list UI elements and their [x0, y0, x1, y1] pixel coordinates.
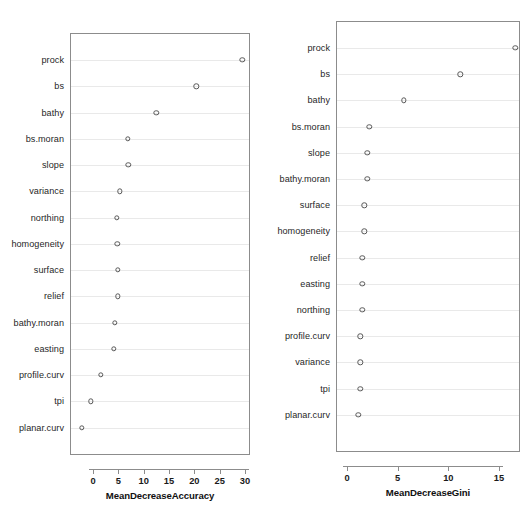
x-axis-tick: [448, 466, 449, 471]
gridline: [337, 127, 519, 128]
gridline: [71, 270, 249, 271]
gridline: [71, 113, 249, 114]
gridline: [71, 323, 249, 324]
y-axis-category-label: slope: [308, 148, 330, 158]
x-axis-tick: [220, 469, 221, 474]
y-axis-category-label: tpi: [54, 396, 64, 406]
y-axis-category-label: bs: [320, 69, 330, 79]
y-axis-category-label: easting: [34, 344, 64, 354]
y-axis-category-label: bathy: [42, 108, 65, 118]
x-axis-tick: [194, 469, 195, 474]
x-axis-tick-label: 10: [443, 473, 453, 483]
x-axis-title: MeanDecreaseGini: [386, 487, 470, 498]
y-axis-category-label: bathy.moran: [280, 174, 330, 184]
y-axis-category-label: homogeneity: [277, 226, 330, 236]
gridline: [71, 218, 249, 219]
gridline: [337, 362, 519, 363]
y-axis-category-label: relief: [310, 253, 330, 263]
x-axis-tick: [245, 469, 246, 474]
x-axis-tick: [499, 466, 500, 471]
x-axis-tick: [118, 469, 119, 474]
x-axis-tick: [398, 466, 399, 471]
gridline: [71, 191, 249, 192]
x-axis-tick-label: 15: [494, 473, 504, 483]
y-axis-category-label: variance: [29, 186, 64, 196]
y-axis-category-label: bathy.moran: [14, 318, 64, 328]
gridline: [337, 336, 519, 337]
gridline: [71, 428, 249, 429]
y-axis-category-label: tpi: [320, 384, 330, 394]
x-axis-tick-label: 10: [138, 476, 148, 486]
x-axis-tick: [144, 469, 145, 474]
gridline: [71, 349, 249, 350]
gridline: [71, 165, 249, 166]
gridline: [71, 244, 249, 245]
x-axis-tick-label: 5: [116, 476, 121, 486]
gridline: [71, 86, 249, 87]
y-axis-category-label: easting: [300, 279, 330, 289]
x-axis-tick: [347, 466, 348, 471]
panel-mean-decrease-accuracy: prockbsbathybs.moranslopevariancenorthin…: [0, 0, 266, 507]
x-axis-tick-label: 20: [189, 476, 199, 486]
gridline: [337, 415, 519, 416]
gridline: [71, 139, 249, 140]
y-axis-category-label: northing: [297, 305, 330, 315]
y-axis-category-label: bs: [54, 81, 64, 91]
x-axis-tick: [169, 469, 170, 474]
gridline: [71, 60, 249, 61]
y-axis-category-label: profile.curv: [19, 370, 64, 380]
gridline: [337, 100, 519, 101]
y-axis-category-label: profile.curv: [285, 331, 330, 341]
gridline: [71, 296, 249, 297]
x-axis-tick-label: 15: [164, 476, 174, 486]
y-axis-category-label: slope: [42, 160, 64, 170]
y-axis-category-label: bs.moran: [26, 134, 64, 144]
x-axis-tick-label: 25: [214, 476, 224, 486]
y-axis-category-label: variance: [295, 357, 330, 367]
y-axis-category-label: bathy: [308, 95, 331, 105]
y-axis-category-label: surface: [300, 200, 330, 210]
gridline: [71, 401, 249, 402]
x-axis-tick-label: 0: [344, 473, 349, 483]
gridline: [337, 48, 519, 49]
var-imp-plot-figure: prockbsbathybs.moranslopevariancenorthin…: [0, 0, 532, 507]
x-axis-line: [343, 466, 503, 467]
y-axis-category-label: planar.curv: [285, 410, 330, 420]
y-axis-category-label: relief: [44, 291, 64, 301]
x-axis-tick-label: 0: [90, 476, 95, 486]
x-axis-tick-label: 5: [395, 473, 400, 483]
gridline: [337, 389, 519, 390]
panel-mean-decrease-gini: prockbsbathybs.moranslopebathy.moransurf…: [266, 0, 532, 507]
y-axis-category-label: bs.moran: [292, 122, 330, 132]
y-axis-category-label: northing: [31, 213, 64, 223]
x-axis-tick-label: 30: [240, 476, 250, 486]
y-axis-category-label: prock: [42, 55, 65, 65]
y-axis-category-label: planar.curv: [19, 423, 64, 433]
y-axis-category-label: surface: [34, 265, 64, 275]
x-axis-tick: [93, 469, 94, 474]
y-axis-category-label: homogeneity: [11, 239, 64, 249]
y-axis-category-label: prock: [308, 43, 331, 53]
x-axis-title: MeanDecreaseAccuracy: [106, 490, 214, 501]
plot-frame: [336, 21, 520, 452]
gridline: [337, 74, 519, 75]
